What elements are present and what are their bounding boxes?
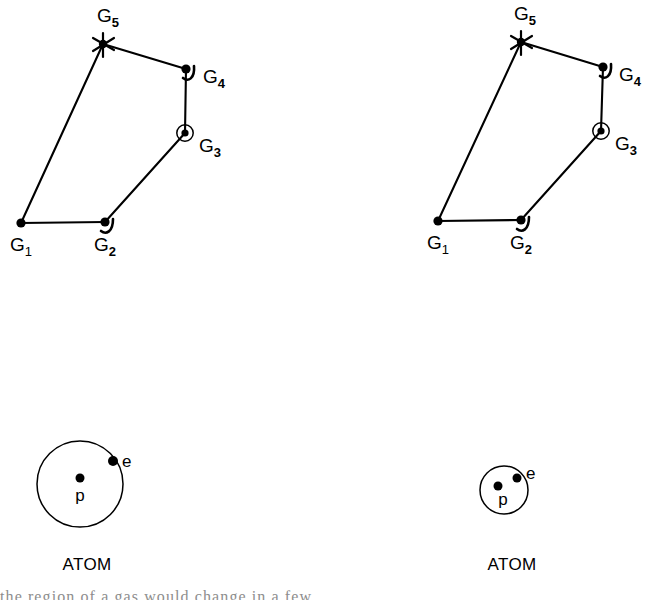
atom-left: p e ATOM — [37, 441, 131, 574]
edge-g4-g5 — [103, 44, 186, 69]
node-g5[interactable]: G5 — [511, 3, 536, 55]
node-g5[interactable]: G5 — [93, 5, 119, 57]
node-g3-label: G3 — [615, 133, 637, 158]
graph-left: G1 G2 G3 G4 — [10, 5, 226, 259]
filled-dot-marker — [181, 64, 190, 73]
node-g2-subscript: 2 — [109, 244, 116, 259]
filled-dot-marker — [181, 129, 188, 136]
node-g1-subscript: 1 — [442, 242, 449, 257]
atom-caption: ATOM — [487, 555, 536, 574]
electron-dot — [108, 456, 118, 466]
node-g1-subscript: 1 — [25, 244, 32, 259]
node-g1[interactable]: G1 — [427, 216, 449, 257]
edge-g5-g1 — [438, 42, 521, 221]
edge-g1-g2 — [21, 222, 105, 223]
filled-dot-marker — [16, 218, 25, 227]
node-g5-base: G — [97, 5, 112, 26]
node-g4-label: G4 — [619, 64, 642, 89]
node-g1-label: G1 — [427, 232, 449, 257]
node-g4[interactable]: G4 — [598, 62, 641, 89]
proton-label: p — [498, 490, 507, 509]
node-g1[interactable]: G1 — [10, 218, 32, 259]
edge-g1-g2 — [438, 220, 521, 221]
filled-dot-marker — [597, 127, 604, 134]
node-g3-base: G — [199, 135, 214, 156]
node-g3-subscript: 3 — [630, 143, 637, 158]
node-g4-subscript: 4 — [218, 76, 226, 91]
node-g5-label: G5 — [97, 5, 119, 30]
node-g2-base: G — [94, 234, 109, 255]
filled-dot-marker — [516, 215, 525, 224]
proton-dot — [76, 474, 85, 483]
node-g4-base: G — [619, 64, 634, 85]
node-g4-base: G — [203, 66, 218, 87]
node-g4[interactable]: G4 — [181, 64, 225, 91]
node-g3-base: G — [615, 133, 630, 154]
node-g3[interactable]: G3 — [593, 123, 637, 158]
node-g4-label: G4 — [203, 66, 226, 91]
electron-dot — [513, 474, 522, 483]
node-g1-label: G1 — [10, 234, 32, 259]
graph-right-edges — [438, 42, 603, 221]
node-g4-subscript: 4 — [634, 74, 642, 89]
edge-g4-g5 — [521, 42, 603, 67]
node-g3-subscript: 3 — [214, 145, 221, 160]
clipped-body-text: the region of a gas would change in a fe… — [0, 588, 650, 600]
node-g5-label: G5 — [514, 3, 536, 28]
atom-caption: ATOM — [62, 555, 111, 574]
edge-g2-g3 — [521, 131, 601, 220]
node-g5-subscript: 5 — [112, 15, 119, 30]
node-g5-base: G — [514, 3, 529, 24]
node-g1-base: G — [10, 234, 25, 255]
node-g2[interactable]: G2 — [94, 217, 116, 259]
node-g3[interactable]: G3 — [177, 125, 221, 160]
node-g2-base: G — [510, 232, 525, 253]
node-g5-subscript: 5 — [529, 13, 536, 28]
edge-g2-g3 — [105, 133, 185, 222]
node-g2[interactable]: G2 — [510, 215, 532, 257]
graph-left-edges — [21, 44, 186, 223]
electron-orbit-circle — [37, 441, 123, 527]
graph-right: G1 G2 G3 G4 — [427, 3, 642, 257]
atom-right: p e ATOM — [480, 464, 537, 574]
filled-dot-marker — [598, 62, 607, 71]
figure-canvas: G1 G2 G3 G4 — [0, 0, 650, 600]
filled-dot-marker — [433, 216, 442, 225]
node-g2-label: G2 — [510, 232, 532, 257]
node-g3-label: G3 — [199, 135, 221, 160]
electron-label: e — [526, 464, 535, 483]
proton-label: p — [75, 486, 84, 505]
node-g2-subscript: 2 — [525, 242, 532, 257]
filled-dot-marker — [100, 217, 109, 226]
node-g2-label: G2 — [94, 234, 116, 259]
edge-g5-g1 — [21, 44, 103, 223]
electron-label: e — [122, 452, 131, 471]
node-g1-base: G — [427, 232, 442, 253]
